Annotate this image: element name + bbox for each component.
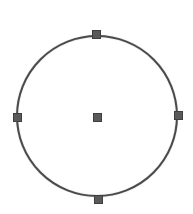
move-handle-center[interactable] — [93, 113, 102, 122]
resize-handle-right[interactable] — [174, 111, 183, 120]
resize-handle-left[interactable] — [13, 113, 22, 122]
resize-handle-bottom[interactable] — [94, 195, 103, 204]
resize-handle-top[interactable] — [92, 30, 101, 39]
drawing-canvas[interactable] — [0, 0, 193, 214]
